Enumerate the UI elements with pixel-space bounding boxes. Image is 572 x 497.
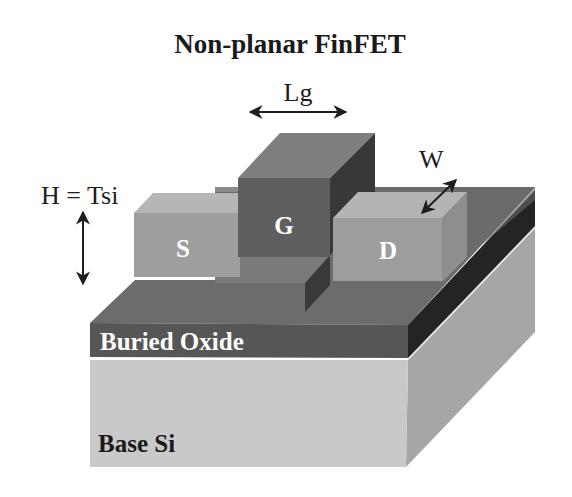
drain-block: D: [333, 192, 467, 282]
fin-width-label: W: [419, 145, 444, 174]
drain-label: D: [379, 237, 397, 264]
diagram-title: Non-planar FinFET: [174, 29, 405, 59]
gate-length-dimension: Lg: [250, 78, 346, 112]
fin-back-strip: [215, 187, 240, 192]
source-block: S: [134, 193, 240, 277]
base-si-label: Base Si: [98, 430, 175, 457]
finfet-diagram: Non-planar FinFET Base Si Buried Oxide S…: [0, 0, 572, 497]
buried-oxide-label: Buried Oxide: [100, 328, 244, 355]
fin-height-label: H = Tsi: [41, 181, 118, 210]
fin-height-dimension: H = Tsi: [41, 181, 118, 284]
gate-length-label: Lg: [284, 78, 313, 107]
gate-label: G: [274, 212, 293, 239]
source-label: S: [176, 235, 190, 262]
source-top-face: [134, 193, 240, 213]
